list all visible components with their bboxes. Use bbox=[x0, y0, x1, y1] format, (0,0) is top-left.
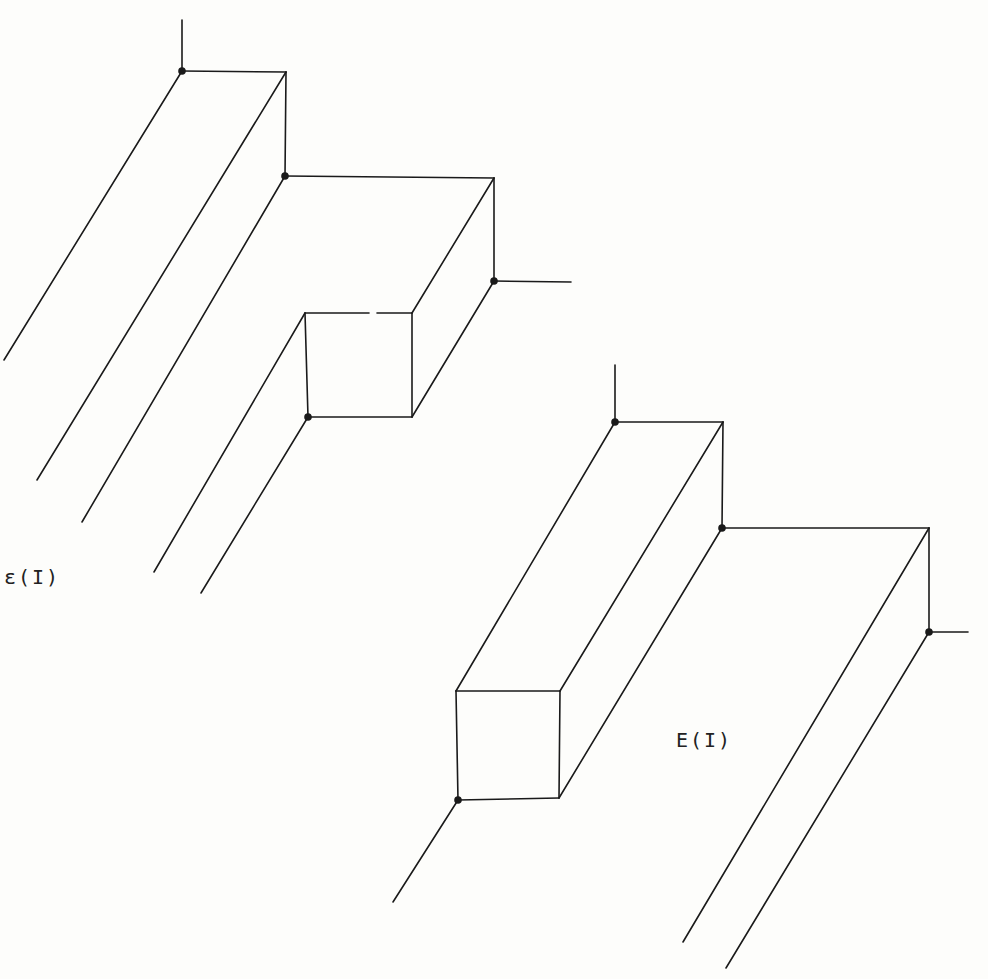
figure-label-E-I: E(I) bbox=[676, 728, 732, 752]
figure-label-epsilon-I: ε(I) bbox=[4, 565, 60, 589]
edge-line bbox=[412, 281, 494, 417]
edge-line bbox=[458, 798, 559, 800]
vertex-dot bbox=[281, 172, 289, 180]
edge-line bbox=[182, 71, 286, 72]
edge-line bbox=[4, 71, 182, 360]
vertex-dot bbox=[718, 524, 726, 532]
edge-line bbox=[456, 691, 458, 800]
edge-line bbox=[305, 313, 308, 417]
edge-line bbox=[37, 72, 286, 480]
edge-line bbox=[559, 528, 722, 798]
edge-line bbox=[722, 422, 723, 528]
edge-line bbox=[201, 417, 308, 593]
edge-line bbox=[456, 422, 615, 691]
upper-figure-epsilon bbox=[4, 20, 571, 593]
edge-line bbox=[726, 632, 929, 968]
edge-line bbox=[285, 176, 494, 178]
vertex-dot bbox=[178, 67, 186, 75]
edge-line bbox=[393, 800, 458, 902]
vertex-dot bbox=[490, 277, 498, 285]
lower-figure-E bbox=[393, 365, 968, 968]
edge-line bbox=[82, 176, 285, 522]
edge-line bbox=[494, 281, 571, 282]
edge-line bbox=[154, 313, 305, 572]
vertex-dot bbox=[304, 413, 312, 421]
edge-line bbox=[560, 422, 723, 691]
vertex-dot bbox=[454, 796, 462, 804]
vertex-dot bbox=[925, 628, 933, 636]
edge-line bbox=[559, 691, 560, 798]
edge-line bbox=[285, 72, 286, 176]
edge-line bbox=[412, 178, 494, 313]
staircase-diagram bbox=[0, 0, 988, 979]
vertex-dot bbox=[611, 418, 619, 426]
